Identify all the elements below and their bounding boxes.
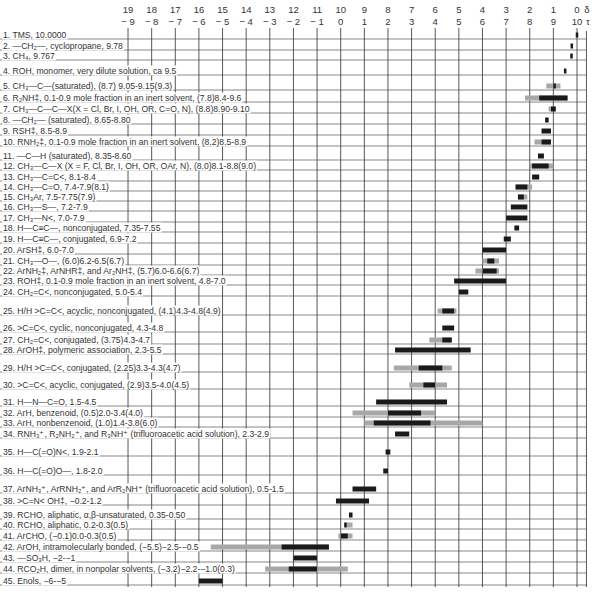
row-label: 21. CH₃—O—, (6.0)6.2-6.5(6.7) — [3, 256, 124, 266]
tau-tick-label: 9 — [551, 16, 556, 27]
typical-range-bar — [386, 450, 391, 455]
row-label: 28. ArOH‡, polymeric association, 2.3-5.… — [3, 345, 162, 355]
delta-tick-label: 15 — [217, 4, 228, 15]
typical-range-bar — [564, 69, 567, 74]
tau-tick-label: − 8 — [145, 16, 158, 27]
delta-tick-label: 14 — [241, 4, 252, 15]
tau-tick-label: 6 — [480, 16, 485, 27]
row-label: 13. CH₃—C=C<, 8.1-8.4 — [3, 172, 96, 182]
typical-range-bar — [571, 44, 574, 49]
row-label: 25. H/H >C=C<, acyclic, nonconjugated, (… — [3, 306, 221, 316]
typical-range-bar — [551, 107, 556, 112]
row-label: 43. —SO₃H, −2-−1 — [3, 553, 76, 563]
delta-tick-label: 2 — [527, 4, 532, 15]
row-label: 41. ArCHO, (−0.1)0.0-0.3(0.5) — [3, 531, 117, 541]
delta-tick-label: 16 — [194, 4, 205, 15]
row-label: 32. ArH, benzenoid, (0.5)2.0-3.4(4.0) — [3, 408, 143, 418]
typical-range-bar — [532, 164, 549, 169]
delta-tick-label: 8 — [385, 4, 390, 15]
typical-range-bar — [514, 226, 519, 231]
nmr-shift-chart: 191817161514131211109876543210δ − 9− 8− … — [0, 0, 592, 594]
row-label: 38. >C=N< OH‡, −0.2-1.2 — [3, 496, 102, 506]
delta-tick-label: 0 — [574, 4, 579, 15]
typical-range-bar — [341, 534, 348, 539]
typical-range-bar — [553, 84, 556, 89]
tau-tick-label: 0 — [338, 16, 343, 27]
typical-range-bar — [395, 348, 471, 353]
typical-range-bar — [516, 185, 528, 190]
tau-tick-label: − 9 — [121, 16, 134, 27]
typical-range-bar — [576, 33, 579, 38]
row-label: 35. H—C(=O)N<, 1.9-2.1 — [3, 447, 99, 457]
typical-range-bar — [336, 499, 369, 504]
delta-tick-label: 10 — [335, 4, 346, 15]
row-label: 4. ROH, monomer, very dilute solution, c… — [3, 66, 177, 76]
typical-range-bar — [459, 290, 468, 295]
row-label: 2. —CH₂—, cyclopropane, 9.78 — [3, 41, 123, 51]
typical-range-bar — [539, 96, 567, 101]
row-label: 33. ArH, nonbenzenoid, (1.0)1.4-3.8(6.0) — [3, 418, 157, 428]
row-label: 11. —C—H (saturated), 8.35-8.60 — [3, 151, 132, 161]
row-label: 1. TMS, 10.0000 — [3, 30, 67, 40]
typical-range-bar — [293, 556, 317, 561]
row-label: 31. H—N—C=O, 1.5-4.5 — [3, 397, 97, 407]
typical-range-bar — [199, 579, 223, 584]
typical-range-bar — [442, 326, 454, 331]
row-label: 26. >C=C<, cyclic, nonconjugated, 4.3-4.… — [3, 323, 163, 333]
row-label: 40. RCHO, aliphatic, 0.2-0.3(0.5) — [3, 520, 128, 530]
typical-range-bar — [487, 259, 494, 264]
typical-range-bar — [538, 154, 544, 159]
row-label: 5. CH₃—C—(saturated), (8.7) 9.05-9.15(9.… — [3, 81, 172, 91]
row-label: 9. RSH‡, 8.5-8.9 — [3, 126, 67, 136]
row-label: 42. ArOH, intramolecularly bonded, (−5.5… — [3, 542, 199, 552]
delta-tick-label: 5 — [456, 4, 461, 15]
row-label: 3. CH₄, 9.767 — [3, 51, 55, 61]
tau-tick-label: 8 — [527, 16, 532, 27]
typical-range-bar — [506, 216, 527, 221]
delta-tick-label: 9 — [362, 4, 367, 15]
tau-tick-label: − 3 — [263, 16, 276, 27]
delta-tick-label: 7 — [409, 4, 414, 15]
row-label: 20. ArSH‡, 6.0-7.0 — [3, 245, 74, 255]
typical-range-bar — [344, 523, 347, 528]
tau-tick-label: 5 — [456, 16, 461, 27]
typical-range-bar — [570, 54, 573, 59]
x-axis-delta: 191817161514131211109876543210δ — [123, 4, 590, 15]
delta-tick-label: 18 — [146, 4, 157, 15]
tau-tick-label: 1 — [362, 16, 367, 27]
row-label: 37. ArNH₃⁺, ArRNH₂⁺, and ArR₂NH⁺ (triflu… — [3, 484, 284, 494]
typical-range-bar — [518, 195, 524, 200]
row-label: 15. CH₃Ar, 7.5-7.75(7.9) — [3, 192, 95, 202]
bars — [199, 33, 578, 584]
x-axis-tau: − 9− 8− 7− 6− 5− 4− 3− 2− 1012345678910τ — [121, 16, 590, 27]
row-label: 44. RCO₂H, dimer, in nonpolar solvents, … — [3, 564, 235, 574]
row-labels: 1. TMS, 10.00002. —CH₂—, cyclopropane, 9… — [2, 30, 285, 587]
tau-tick-label: − 4 — [239, 16, 252, 27]
typical-range-bar — [289, 567, 317, 572]
delta-tick-label: 4 — [480, 4, 485, 15]
typical-range-bar — [423, 383, 435, 388]
row-label: 17. CH₃—N<, 7.0-7.9 — [3, 213, 85, 223]
typical-range-bar — [374, 421, 431, 426]
row-label: 45. Enols, −6-−5 — [3, 576, 66, 586]
typical-range-bar — [532, 175, 539, 180]
tau-tick-label: − 5 — [216, 16, 229, 27]
typical-range-bar — [482, 269, 496, 274]
row-label: 23. ROH‡, 0.1-0.9 mole fraction in an in… — [3, 276, 226, 286]
row-label: 19. H—C≡C—, conjugated, 6.9-7.2 — [3, 234, 137, 244]
typical-range-bar — [482, 248, 506, 253]
delta-tick-label: 3 — [503, 4, 508, 15]
row-label: 36. H—C(=O)O—, 1.8-2.0 — [3, 466, 103, 476]
row-label: 22. ArNH₂‡, ArNHR‡, and Ar₂NH‡, (5.7)6.0… — [3, 266, 199, 276]
delta-tick-label: 12 — [288, 4, 299, 15]
typical-range-bar — [442, 309, 454, 314]
delta-tick-label: 1 — [551, 4, 556, 15]
typical-range-bar — [545, 118, 549, 123]
delta-tick-label: 11 — [312, 4, 322, 15]
tau-tick-label: 4 — [433, 16, 438, 27]
row-label: 6. R₂NH‡, 0.1-0.9 mole fraction in an in… — [3, 93, 242, 103]
tau-tick-label: − 1 — [310, 16, 323, 27]
typical-range-bar — [419, 366, 443, 371]
tau-tick-label: 3 — [409, 16, 414, 27]
row-label: 24. CH₂=C<, nonconjugated, 5.0-5.4 — [3, 287, 142, 297]
